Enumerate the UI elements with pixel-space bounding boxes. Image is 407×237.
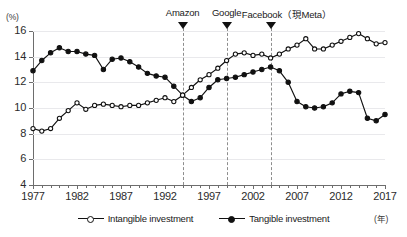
data-point xyxy=(365,116,369,120)
data-point xyxy=(277,69,281,73)
data-point xyxy=(295,99,299,103)
data-point xyxy=(383,112,387,116)
data-point xyxy=(163,75,167,79)
data-point xyxy=(233,75,237,79)
data-point xyxy=(31,126,35,130)
data-point xyxy=(304,37,308,41)
data-point xyxy=(172,99,176,103)
data-point xyxy=(101,102,105,106)
data-point xyxy=(242,51,246,55)
data-point xyxy=(251,70,255,74)
data-point xyxy=(198,96,202,100)
data-point xyxy=(260,67,264,71)
data-point xyxy=(128,103,132,107)
legend-label: Intangible investment xyxy=(108,213,194,224)
data-point xyxy=(136,65,140,69)
data-point xyxy=(356,90,360,94)
data-point xyxy=(233,52,237,56)
data-point xyxy=(48,51,52,55)
series-intangible xyxy=(31,31,387,133)
data-point xyxy=(119,105,123,109)
data-point xyxy=(84,107,88,111)
chart-legend: Intangible investmentTangible investment xyxy=(0,213,407,224)
series-layer xyxy=(0,0,407,237)
data-point xyxy=(172,84,176,88)
data-point xyxy=(207,73,211,77)
data-point xyxy=(269,56,273,60)
data-point xyxy=(383,40,387,44)
data-point xyxy=(286,80,290,84)
data-point xyxy=(268,65,272,69)
data-point xyxy=(330,101,334,105)
data-point xyxy=(57,45,61,49)
data-point xyxy=(75,49,79,53)
data-point xyxy=(40,58,44,62)
data-point xyxy=(93,103,97,107)
data-point xyxy=(66,108,70,112)
data-point xyxy=(330,43,334,47)
data-point xyxy=(339,92,343,96)
legend-label: Tangible investment xyxy=(249,213,329,224)
data-point xyxy=(75,101,79,105)
data-point xyxy=(357,31,361,35)
data-point xyxy=(145,101,149,105)
data-point xyxy=(84,52,88,56)
data-point xyxy=(225,58,229,62)
data-point xyxy=(295,43,299,47)
data-point xyxy=(339,39,343,43)
series-line xyxy=(33,34,385,132)
data-point xyxy=(348,35,352,39)
data-point xyxy=(49,126,53,130)
data-point xyxy=(216,78,220,82)
data-point xyxy=(251,53,255,57)
data-point xyxy=(313,47,317,51)
data-point xyxy=(31,69,35,73)
data-point xyxy=(128,60,132,64)
data-point xyxy=(101,67,105,71)
data-point xyxy=(119,56,123,60)
data-point xyxy=(277,52,281,56)
data-point xyxy=(189,99,193,103)
data-point xyxy=(163,96,167,100)
data-point xyxy=(40,129,44,133)
data-point xyxy=(57,116,61,120)
data-point xyxy=(312,106,316,110)
open-circle-icon xyxy=(78,214,104,224)
data-point xyxy=(207,85,211,89)
data-point xyxy=(374,119,378,123)
data-point xyxy=(242,72,246,76)
legend-item[interactable]: Intangible investment xyxy=(78,213,194,224)
data-point xyxy=(365,37,369,41)
data-point xyxy=(374,42,378,46)
data-point xyxy=(348,89,352,93)
data-point xyxy=(304,105,308,109)
data-point xyxy=(154,98,158,102)
data-point xyxy=(189,85,193,89)
data-point xyxy=(198,78,202,82)
chart-root: (%) (年) 16141210864 19771982198719921997… xyxy=(0,0,407,237)
legend-item[interactable]: Tangible investment xyxy=(219,213,329,224)
data-point xyxy=(181,93,185,97)
data-point xyxy=(321,47,325,51)
data-point xyxy=(110,57,114,61)
data-point xyxy=(92,53,96,57)
data-point xyxy=(260,52,264,56)
data-point xyxy=(110,103,114,107)
data-point xyxy=(154,74,158,78)
data-point xyxy=(224,76,228,80)
data-point xyxy=(145,71,149,75)
data-point xyxy=(286,47,290,51)
filled-circle-icon xyxy=(219,214,245,224)
data-point xyxy=(321,105,325,109)
data-point xyxy=(137,103,141,107)
data-point xyxy=(216,66,220,70)
data-point xyxy=(66,49,70,53)
